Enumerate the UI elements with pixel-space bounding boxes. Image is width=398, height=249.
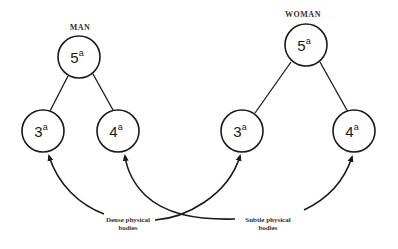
caption-subtle-physical-bodies: Subtle physical bodies (245, 216, 290, 232)
woman-edge-5-3 (255, 62, 291, 113)
woman-node-3: 3a (221, 110, 263, 152)
svg-text:Dense physical: Dense physical (106, 216, 150, 224)
man-node-4: 4a (97, 110, 139, 152)
man-label: MAN (70, 23, 91, 32)
arrow-dense-to-man-3 (49, 156, 104, 214)
svg-text:bodies: bodies (258, 224, 277, 232)
arrow-subtle-to-woman-4 (304, 157, 352, 210)
woman-label: WOMAN (285, 10, 321, 19)
man-group: MAN 5a 3a 4a (22, 23, 139, 152)
man-edge-5-3 (50, 76, 68, 111)
woman-edge-5-4 (320, 62, 348, 112)
man-node-5: 5a (58, 36, 100, 78)
svg-text:Subtle physical: Subtle physical (245, 216, 290, 224)
man-edge-5-4 (93, 74, 113, 110)
man-node-3: 3a (22, 110, 64, 152)
svg-text:bodies: bodies (118, 224, 137, 232)
woman-node-5: 5a (285, 24, 327, 66)
woman-node-4: 4a (333, 110, 375, 152)
arrow-subtle-to-man-4 (125, 156, 235, 219)
diagram-canvas: MAN 5a 3a 4a WOMAN 5a 3a 4a (0, 0, 398, 249)
woman-group: WOMAN 5a 3a 4a (221, 10, 375, 152)
caption-dense-physical-bodies: Dense physical bodies (106, 216, 150, 232)
